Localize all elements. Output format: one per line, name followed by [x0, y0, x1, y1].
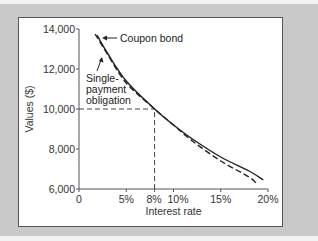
y-tick-label: 6,000	[49, 183, 75, 195]
single-payment-arrowhead	[99, 57, 104, 63]
axis-labels: 6,0008,00010,00012,00014,00005%8%10%15%2…	[23, 23, 279, 217]
x-tick-label: 8%	[146, 193, 161, 205]
y-axis-title: Values ($)	[23, 85, 35, 132]
line-chart: 6,0008,00010,00012,00014,00005%8%10%15%2…	[0, 0, 318, 241]
coupon-bond-arrowhead	[102, 36, 107, 41]
y-tick-label: 8,000	[49, 143, 75, 155]
x-tick-label: 0	[76, 193, 82, 205]
x-axis-title: Interest rate	[145, 205, 201, 217]
y-tick-label: 14,000	[43, 23, 75, 35]
y-tick-label: 12,000	[43, 63, 75, 75]
y-tick-label: 10,000	[43, 103, 75, 115]
single-payment-arrow	[97, 60, 101, 71]
x-tick-label: 10%	[168, 193, 189, 205]
x-tick-label: 20%	[257, 193, 278, 205]
reference-lines	[79, 109, 155, 189]
single-payment-label-line: obligation	[86, 94, 131, 106]
coupon-bond-label: Coupon bond	[120, 32, 183, 44]
axes	[76, 29, 268, 192]
x-tick-label: 15%	[210, 193, 231, 205]
coupon-bond-curve	[97, 35, 263, 180]
x-tick-label: 5%	[119, 193, 134, 205]
